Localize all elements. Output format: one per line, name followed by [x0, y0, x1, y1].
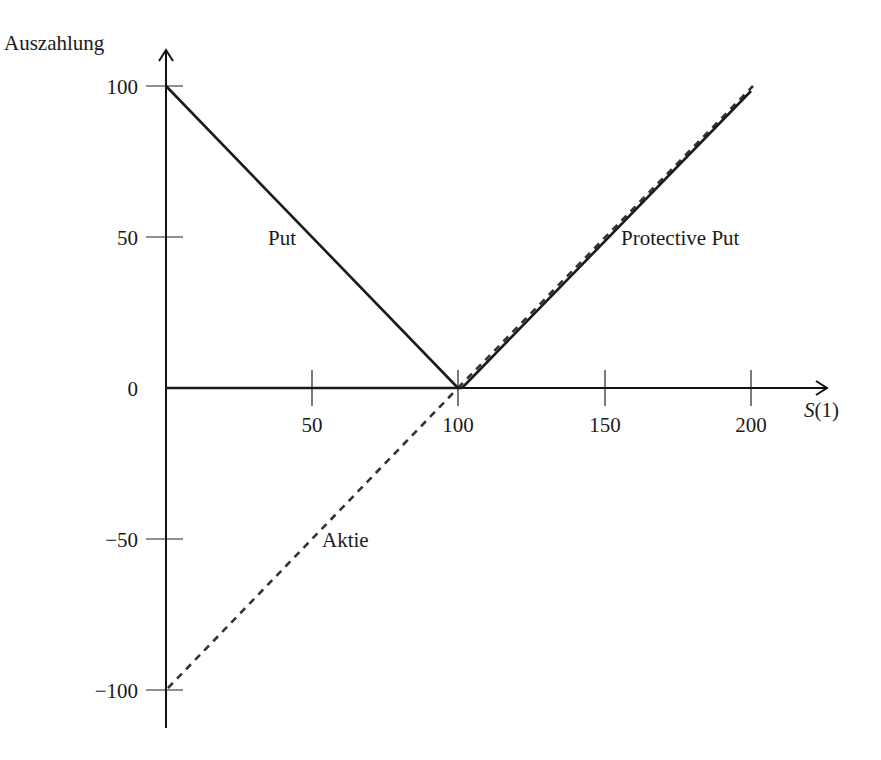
- x-axis-label-arg: (1): [815, 398, 840, 422]
- label-protective-put: Protective Put: [621, 226, 740, 250]
- payoff-chart: Auszahlung S(1) 100 50 0 −50 −100 50 100…: [0, 0, 881, 760]
- y-tick-label-minus-100: −100: [95, 679, 138, 703]
- x-tick-label-200: 200: [735, 413, 767, 437]
- y-tick-label-50: 50: [117, 226, 138, 250]
- x-tick-label-50: 50: [302, 413, 323, 437]
- x-tick-label-150: 150: [589, 413, 621, 437]
- series-put: [166, 86, 458, 388]
- x-axis-label: S(1): [804, 398, 839, 422]
- y-tick-label-0: 0: [128, 377, 139, 401]
- y-tick-label-minus-50: −50: [105, 528, 138, 552]
- y-axis-label: Auszahlung: [4, 31, 105, 55]
- label-aktie: Aktie: [322, 528, 369, 552]
- y-tick-label-100: 100: [107, 75, 139, 99]
- x-axis-label-var: S: [804, 398, 815, 422]
- x-tick-label-100: 100: [442, 413, 474, 437]
- label-put: Put: [268, 226, 296, 250]
